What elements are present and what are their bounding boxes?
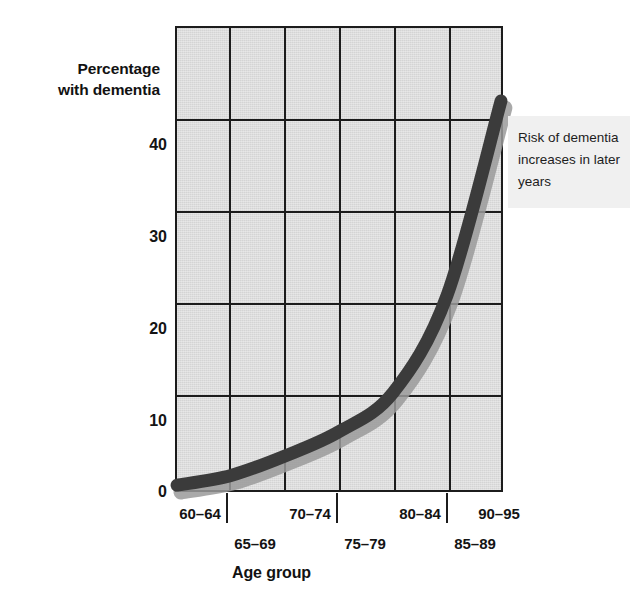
x-axis-title: Age group [0, 564, 543, 582]
y-axis-tick-labels: 40 30 20 10 0 [119, 26, 167, 492]
annotation-line-2: increases in later [518, 149, 621, 171]
x-tick-label-65-69: 65–69 [234, 536, 276, 551]
x-axis-tick-labels: 60–64 65–69 70–74 75–79 80–84 85–89 90–9… [0, 492, 543, 562]
x-tick-label-75-79: 75–79 [344, 536, 386, 551]
annotation-line-3: years [518, 171, 621, 193]
data-series-curve [177, 28, 501, 490]
x-tickmark-75-79 [336, 493, 338, 523]
y-tick-label-20: 20 [127, 321, 167, 337]
x-tick-label-90-95: 90–95 [478, 506, 520, 521]
annotation-callout: Risk of dementia increases in later year… [508, 116, 630, 208]
x-tick-label-85-89: 85–89 [454, 536, 496, 551]
x-tick-label-80-84: 80–84 [399, 506, 441, 521]
x-tick-label-60-64: 60–64 [179, 506, 221, 521]
y-tick-label-30: 30 [127, 229, 167, 245]
x-tickmark-65-69 [226, 493, 228, 523]
y-tick-label-40: 40 [127, 137, 167, 153]
x-tick-label-70-74: 70–74 [289, 506, 331, 521]
series-line-path [177, 101, 501, 485]
x-tickmark-85-89 [446, 493, 448, 523]
annotation-line-1: Risk of dementia [518, 127, 621, 149]
plot-area: Risk of dementia increases in later year… [175, 26, 503, 492]
y-tick-label-10: 10 [127, 413, 167, 429]
